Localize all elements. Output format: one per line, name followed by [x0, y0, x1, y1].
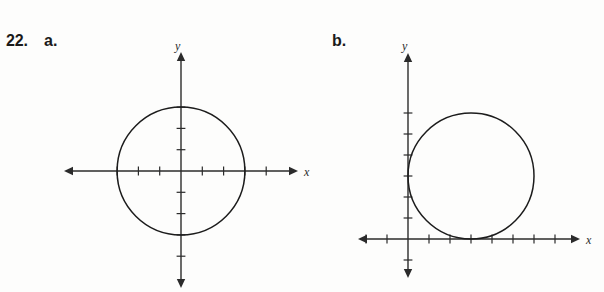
- y-axis-arrow-up: [177, 52, 185, 61]
- x-axis-arrow-right: [571, 235, 580, 243]
- graph-a-svg: x y: [0, 0, 330, 292]
- graph-a-x-axis-label: x: [303, 165, 310, 179]
- graph-b-x-axis-label: x: [585, 233, 592, 247]
- y-axis-arrow-up: [404, 53, 412, 62]
- page-canvas: 22. a. b. x y x y: [0, 0, 604, 292]
- circle-curve: [408, 113, 534, 239]
- x-axis-arrow-left: [64, 167, 73, 175]
- y-axis-arrow-down: [404, 269, 412, 278]
- graph-b-curve: [408, 113, 534, 239]
- graph-a-y-axis-label: y: [174, 39, 181, 53]
- graph-b-svg: x y: [330, 0, 604, 292]
- graph-b-y-axis-label: y: [401, 39, 408, 53]
- x-axis-arrow-right: [289, 167, 298, 175]
- graph-a-axes: [64, 52, 298, 288]
- y-axis-arrow-down: [177, 279, 185, 288]
- graph-b: x y: [330, 0, 604, 292]
- graph-a: x y: [0, 0, 330, 292]
- graph-b-axes: [358, 53, 580, 278]
